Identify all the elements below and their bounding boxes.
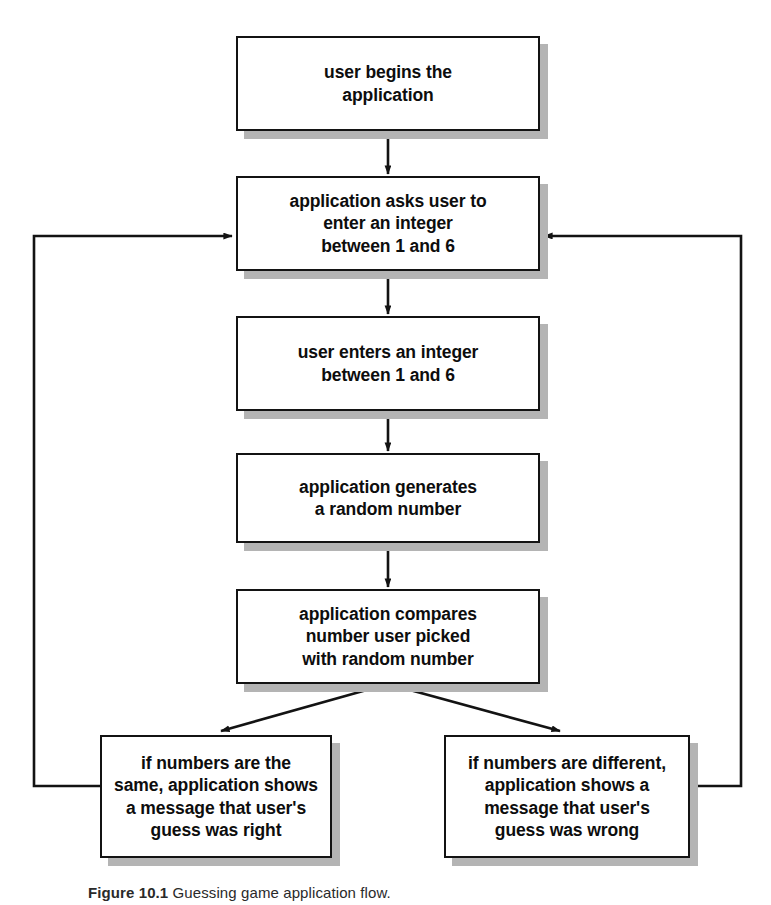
flow-node-start-label: user begins the application xyxy=(318,61,458,106)
flow-node-random-label: application generates a random number xyxy=(293,476,483,521)
flow-node-guess-right[interactable]: if numbers are the same, application sho… xyxy=(100,735,332,858)
flow-node-prompt[interactable]: application asks user to enter an intege… xyxy=(236,176,540,271)
figure-caption-text: Guessing game application flow. xyxy=(173,884,391,901)
flow-node-guess-wrong[interactable]: if numbers are different, application sh… xyxy=(444,735,690,858)
flow-node-compare-label: application compares number user picked … xyxy=(293,603,483,671)
connector-compare-to-wrong xyxy=(388,684,560,731)
flow-node-prompt-label: application asks user to enter an intege… xyxy=(284,190,493,258)
flow-node-input[interactable]: user enters an integer between 1 and 6 xyxy=(236,316,540,411)
flow-node-start[interactable]: user begins the application xyxy=(236,36,540,131)
figure-caption: Figure 10.1 Guessing game application fl… xyxy=(88,884,391,901)
flow-node-compare[interactable]: application compares number user picked … xyxy=(236,589,540,684)
flow-node-guess-wrong-label: if numbers are different, application sh… xyxy=(462,752,672,842)
flow-node-guess-right-label: if numbers are the same, application sho… xyxy=(108,752,324,842)
figure-caption-label: Figure 10.1 xyxy=(88,884,168,901)
connector-compare-to-right xyxy=(221,684,388,731)
connector-right-loopback xyxy=(34,236,232,786)
flow-node-input-label: user enters an integer between 1 and 6 xyxy=(292,341,485,386)
flowchart-canvas: user begins the application application … xyxy=(0,0,771,905)
connector-wrong-loopback xyxy=(544,236,741,786)
flow-node-random[interactable]: application generates a random number xyxy=(236,453,540,543)
